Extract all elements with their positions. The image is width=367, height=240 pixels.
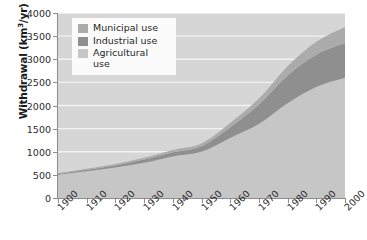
y-tick-mark [53, 13, 58, 14]
y-axis-tick-labels: 05001000150020002500300035004000 [0, 0, 51, 240]
y-tick-label: 4000 [3, 8, 51, 19]
y-tick-mark [53, 198, 58, 199]
y-tick-label: 500 [3, 169, 51, 180]
y-tick-mark [53, 36, 58, 37]
y-tick-mark [53, 129, 58, 130]
legend-item: Municipal use [78, 23, 170, 34]
x-tick-label: 2000 [342, 188, 367, 213]
legend-item: Agricultural use [78, 48, 170, 69]
area-series-agricultural-use [58, 78, 345, 198]
legend-label: Municipal use [93, 23, 158, 34]
legend-swatch-icon [78, 24, 88, 33]
legend-item: Industrial use [78, 36, 170, 47]
y-tick-label: 1500 [3, 123, 51, 134]
y-tick-label: 3500 [3, 31, 51, 42]
y-tick-mark [53, 175, 58, 176]
y-tick-label: 3000 [3, 54, 51, 65]
y-tick-mark [53, 82, 58, 83]
legend-swatch-icon [78, 49, 88, 58]
y-tick-label: 2500 [3, 77, 51, 88]
y-tick-label: 1000 [3, 146, 51, 157]
chart-legend: Municipal useIndustrial useAgricultural … [72, 18, 176, 75]
y-tick-label: 2000 [3, 100, 51, 111]
y-tick-mark [53, 106, 58, 107]
y-tick-mark [53, 59, 58, 60]
y-tick-label: 0 [3, 193, 51, 204]
legend-swatch-icon [78, 37, 88, 46]
y-tick-mark [53, 152, 58, 153]
legend-label: Industrial use [93, 36, 157, 47]
legend-label: Agricultural use [93, 48, 148, 69]
